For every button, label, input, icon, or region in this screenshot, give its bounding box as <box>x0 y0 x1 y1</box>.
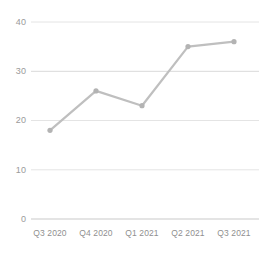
chart-plot-area <box>0 0 273 257</box>
gridlines <box>31 22 259 170</box>
data-point-q3-2021 <box>231 39 236 44</box>
data-point-q1-2021 <box>139 103 144 108</box>
line-chart: 40 30 20 10 0 Q3 2020 Q4 2020 Q1 2021 Q2… <box>0 0 273 257</box>
data-point-q4-2020 <box>93 88 98 93</box>
data-point-q3-2020 <box>47 128 52 133</box>
series-line <box>50 42 234 131</box>
data-point-q2-2021 <box>185 44 190 49</box>
series-markers <box>47 39 236 133</box>
